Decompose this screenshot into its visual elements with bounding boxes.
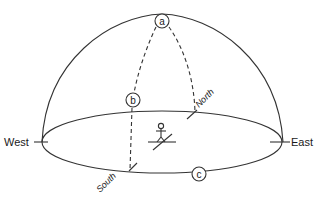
meridian-arc-south (134, 27, 156, 93)
marker-c: c (192, 167, 206, 181)
label-east: East (291, 136, 313, 148)
celestial-dome-diagram: a b c West East North South (0, 0, 324, 208)
dome-outline (42, 14, 283, 142)
vertical-dashed-line (130, 108, 132, 170)
svg-text:c: c (197, 169, 202, 180)
svg-text:a: a (159, 16, 165, 27)
label-west: West (4, 136, 29, 148)
marker-b: b (126, 93, 140, 107)
observer-icon (148, 123, 176, 150)
label-south: South (94, 171, 118, 195)
svg-text:b: b (130, 95, 136, 106)
meridian-arc-north (169, 27, 195, 112)
marker-a: a (155, 14, 169, 28)
label-north: North (193, 87, 216, 110)
